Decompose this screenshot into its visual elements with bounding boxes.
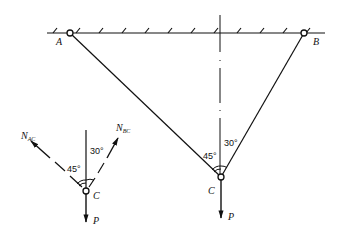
fbd-nbc-arrow xyxy=(107,138,118,158)
label-p: P xyxy=(227,211,234,222)
angle-label-30: 30° xyxy=(224,138,238,148)
label-c: C xyxy=(208,185,215,196)
free-body-diagram: NAC NBC 45° 30° C P xyxy=(20,122,131,226)
fbd-label-nac: NAC xyxy=(20,130,36,142)
fbd-label-p: P xyxy=(92,215,99,226)
fbd-label-c: C xyxy=(93,190,100,201)
fbd-nac-arrow xyxy=(31,141,50,158)
pin-a xyxy=(67,30,73,36)
label-b: B xyxy=(313,36,319,47)
label-a: A xyxy=(55,36,63,47)
bar-bc xyxy=(221,33,304,177)
angle-label-45: 45° xyxy=(203,151,217,161)
fbd-angle-label-30: 30° xyxy=(90,146,104,156)
fbd-pin-c xyxy=(83,188,89,194)
truss-diagram: A B C P 45° 30° NAC NBC 45° 30° C P xyxy=(0,0,341,242)
fbd-angle-label-45: 45° xyxy=(67,164,81,174)
pin-b xyxy=(301,30,307,36)
pin-c xyxy=(218,174,224,180)
angle-arc-30 xyxy=(221,166,227,168)
fbd-label-nbc: NBC xyxy=(115,122,131,134)
fixed-support-ceiling xyxy=(47,28,325,33)
